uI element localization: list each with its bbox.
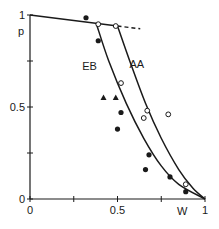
triangle-marker — [101, 95, 107, 100]
filled-circle-marker — [96, 38, 101, 43]
open-circle-marker — [119, 81, 124, 86]
axes: 00.5100.51 — [10, 9, 208, 216]
labels: WpEBAA — [18, 25, 188, 217]
filled-circle-marker — [146, 152, 151, 157]
triangle-marker — [113, 95, 119, 100]
filled-circle-marker — [167, 174, 172, 179]
curve-label-eb: EB — [82, 60, 97, 72]
open-circle-marker — [183, 182, 188, 187]
x-tick-label: 0 — [27, 204, 33, 216]
top-line-dashed — [118, 26, 141, 29]
curve-label-aa: AA — [129, 58, 144, 70]
x-axis-label: W — [177, 205, 188, 217]
data-markers — [83, 15, 188, 194]
filled-circle-marker — [118, 110, 123, 115]
y-tick-label: 0.5 — [10, 101, 25, 113]
y-axis-label: p — [18, 25, 24, 37]
filled-circle-marker — [183, 189, 188, 194]
open-circle-marker — [166, 112, 171, 117]
x-tick-label: 0.5 — [110, 204, 125, 216]
top-line — [30, 15, 118, 26]
filled-circle-marker — [115, 126, 120, 131]
curves — [30, 15, 205, 199]
filled-circle-marker — [83, 15, 88, 20]
filled-circle-marker — [143, 167, 148, 172]
open-circle-marker — [145, 108, 150, 113]
open-circle-marker — [141, 116, 146, 121]
chart: 00.5100.51 WpEBAA — [0, 0, 219, 229]
open-circle-marker — [96, 22, 101, 27]
y-tick-label: 1 — [19, 9, 25, 21]
y-tick-label: 0 — [19, 193, 25, 205]
x-tick-label: 1 — [202, 204, 208, 216]
curve-eb — [97, 24, 206, 199]
open-circle-marker — [113, 24, 118, 29]
